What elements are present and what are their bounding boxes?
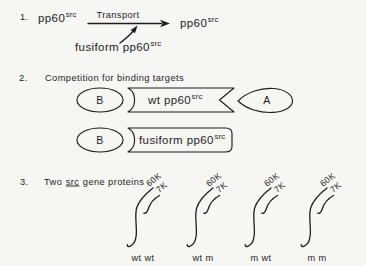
section-2-number: 2. [19, 73, 28, 83]
protein-right-label: pp60src [180, 15, 219, 29]
wt-pp60-banner-label: wt pp60src [147, 92, 203, 106]
binding-target-b2-label: B [96, 134, 103, 146]
section-3-title: Twosrcgene proteins [44, 177, 144, 187]
section-1-number: 1. [20, 12, 29, 22]
genotype-label: wt m [192, 253, 214, 263]
figure-canvas: 1. pp60src Transport pp60src fusiform pp… [0, 0, 366, 266]
binding-target-a-label: A [263, 94, 270, 106]
figure-page: 1. pp60src Transport pp60src fusiform pp… [0, 0, 366, 266]
genotype-label: m m [307, 253, 326, 263]
protein-curve-group-wtm: 60K 7K wt m [187, 171, 229, 263]
genotype-label: wt wt [131, 253, 155, 263]
protein-curve-group-mwt: 60K 7K m wt [245, 171, 287, 263]
protein-left-label: pp60src [38, 10, 77, 24]
section-3-number: 3. [20, 177, 29, 187]
gel-curve-60k [127, 188, 153, 247]
gel-curve-60k [187, 188, 213, 247]
gel-curve-7k [204, 196, 220, 214]
transport-label: Transport [96, 10, 139, 20]
binding-target-b-label: B [96, 94, 103, 106]
gel-curve-7k [318, 196, 334, 214]
section-2-competition: 2. Competition for binding targets B wt … [19, 73, 293, 152]
gel-curve-60k [245, 188, 271, 247]
section-1-transport-scheme: 1. pp60src Transport pp60src fusiform pp… [20, 10, 219, 54]
section-3-two-proteins: 3. Twosrcgene proteins 60K 7K wt wt 60K … [20, 171, 343, 263]
gel-curve-60k [301, 188, 327, 247]
gel-curve-7k [262, 196, 278, 214]
section-2-title: Competition for binding targets [45, 73, 184, 83]
protein-curve-group-mm: 60K 7K m m [301, 171, 343, 263]
genotype-label: m wt [251, 253, 272, 263]
gel-curve-7k [144, 196, 160, 214]
fusiform-protein-label: fusiform pp60src [75, 39, 161, 53]
fusiform-pp60-box-label: fusiform pp60src [139, 132, 225, 146]
